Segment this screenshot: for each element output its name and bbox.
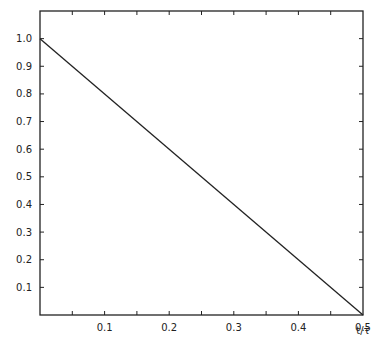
y-tick-label: 1.0 bbox=[16, 33, 32, 44]
x-tick-label: 0.1 bbox=[97, 322, 113, 333]
line-chart: 0.10.20.30.40.50.10.20.30.40.50.60.70.80… bbox=[0, 0, 379, 357]
y-tick-label: 0.7 bbox=[16, 116, 32, 127]
plot-border bbox=[40, 11, 363, 315]
plot-frame bbox=[40, 11, 363, 315]
data-series bbox=[40, 39, 363, 315]
y-tick-label: 0.1 bbox=[16, 282, 32, 293]
y-tick-label: 0.2 bbox=[16, 254, 32, 265]
y-tick-label: 0.6 bbox=[16, 144, 32, 155]
y-tick-label: 0.9 bbox=[16, 61, 32, 72]
y-tick-label: 0.4 bbox=[16, 199, 32, 210]
y-tick-label: 0.8 bbox=[16, 88, 32, 99]
y-tick-label: 0.5 bbox=[16, 171, 32, 182]
x-tick-label: 0.2 bbox=[161, 322, 177, 333]
axis-ticks: 0.10.20.30.40.50.10.20.30.40.50.60.70.80… bbox=[16, 11, 371, 333]
x-tick-label: 0.3 bbox=[226, 322, 242, 333]
x-axis-label: t/τ bbox=[356, 325, 369, 336]
series-line bbox=[40, 39, 363, 315]
x-tick-label: 0.4 bbox=[290, 322, 306, 333]
y-tick-label: 0.3 bbox=[16, 227, 32, 238]
